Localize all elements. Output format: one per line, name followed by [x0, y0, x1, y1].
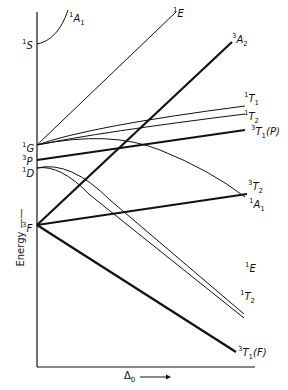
label-1G: 1G	[22, 142, 34, 154]
line-3T1P	[37, 130, 245, 160]
label-3T2: 3T2	[248, 180, 263, 195]
label-1E-top: 1E	[173, 7, 184, 19]
energy-level-diagram	[0, 0, 288, 390]
label-1T2: 1T2	[244, 110, 259, 125]
label-1T2-low: 1T2	[240, 290, 255, 305]
line-3A2	[37, 42, 232, 225]
label-1T1: 1T1	[244, 92, 259, 107]
line-3T1F	[37, 225, 236, 352]
label-1S: 1S	[22, 39, 33, 51]
label-3T1P: 3T1(P)	[251, 125, 280, 140]
label-1D: 1D	[22, 167, 34, 179]
curve-1A1-from-1S	[37, 10, 68, 44]
x-axis-label: Δ0	[124, 370, 135, 384]
label-3T1F: 3T1(F)	[238, 346, 267, 361]
line-1E-from-1G	[37, 12, 176, 145]
line-3T2	[37, 194, 247, 225]
label-1E-low: 1E	[245, 262, 256, 274]
curve-1T2-from-1D	[37, 168, 244, 318]
label-3A2: 3A2	[232, 33, 248, 48]
curve-1A1-from-1G	[37, 139, 245, 197]
label-1A1-top: 1A1	[69, 12, 85, 27]
x-arrowhead-icon	[166, 375, 171, 380]
y-axis-label: Energy ——	[15, 208, 26, 268]
label-1A1-mid: 1A1	[249, 198, 265, 213]
